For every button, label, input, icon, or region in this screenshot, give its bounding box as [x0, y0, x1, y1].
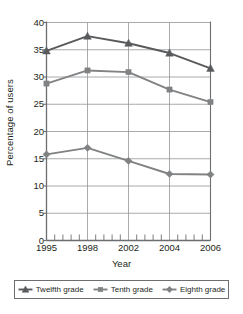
diamond-marker-icon — [84, 144, 91, 151]
x-tick-label: 2004 — [150, 243, 190, 253]
square-marker-icon — [126, 69, 131, 74]
x-axis-title: Year — [0, 258, 243, 269]
diamond-marker-icon — [162, 285, 177, 294]
square-marker-icon — [93, 285, 108, 294]
legend-entry[interactable]: Eighth grade — [162, 285, 225, 294]
x-axis-tick-labels: 19951998200220042006 — [0, 243, 243, 257]
chart-legend: Twelfth gradeTenth gradeEighth grade — [14, 280, 229, 299]
legend-label: Eighth grade — [180, 286, 225, 294]
square-marker-icon — [167, 87, 172, 92]
legend-entry[interactable]: Twelfth grade — [18, 285, 84, 294]
legend-label: Twelfth grade — [36, 286, 84, 294]
square-marker-icon — [44, 81, 49, 86]
square-marker-icon — [98, 287, 103, 292]
line-chart-figure: Percentage of users 4035302520151050 199… — [0, 0, 243, 314]
diamond-marker-icon — [166, 170, 173, 177]
diamond-marker-icon — [166, 286, 172, 292]
x-axis-title-text: Year — [112, 258, 131, 269]
diamond-marker-icon — [207, 171, 214, 178]
x-tick-label: 2002 — [109, 243, 149, 253]
square-marker-icon — [208, 99, 213, 104]
x-tick-label: 1995 — [27, 243, 67, 253]
axis-lines — [43, 22, 211, 241]
diamond-marker-icon — [43, 151, 50, 158]
legend-entry[interactable]: Tenth grade — [93, 285, 153, 294]
triangle-marker-icon — [18, 285, 33, 294]
x-tick-label: 1998 — [68, 243, 108, 253]
legend-label: Tenth grade — [111, 286, 153, 294]
square-marker-icon — [85, 68, 90, 73]
x-tick-label: 2006 — [191, 243, 231, 253]
